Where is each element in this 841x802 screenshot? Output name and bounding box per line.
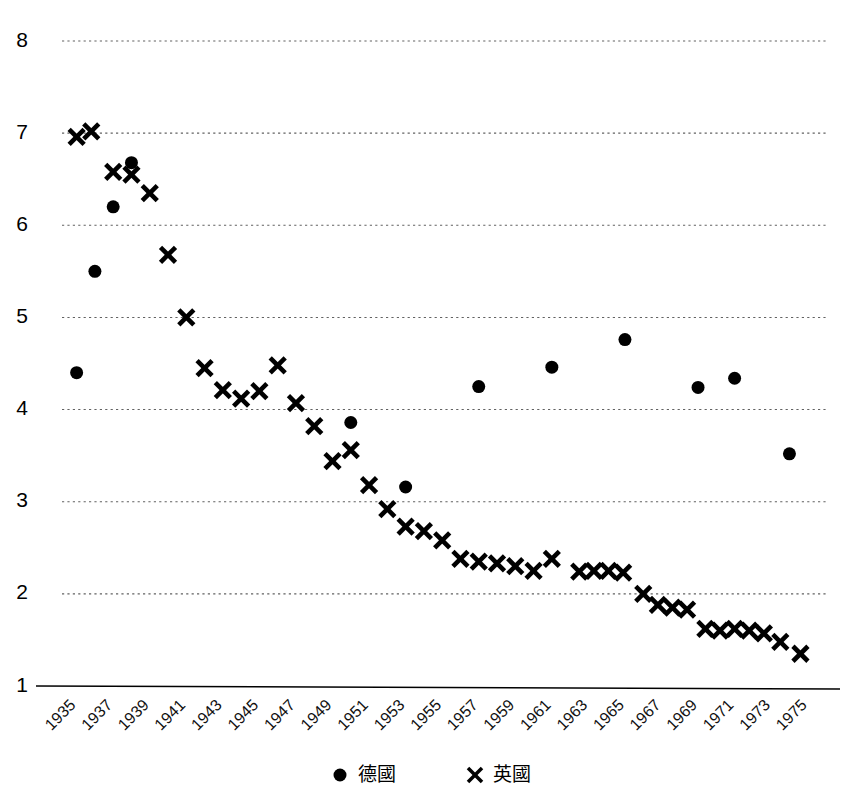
data-point-英國-23 — [490, 556, 505, 571]
scatter-chart-figure: 12345678 1935193719391941194319451947194… — [0, 0, 841, 802]
legend-label-英國: 英國 — [493, 764, 531, 785]
x-tick-label-1945: 1945 — [224, 696, 261, 733]
data-series-group — [69, 124, 808, 661]
data-point-德國-8 — [618, 333, 631, 346]
data-point-英國-9 — [234, 391, 249, 406]
data-point-英國-33 — [665, 600, 680, 615]
x-tick-label-1953: 1953 — [371, 696, 408, 733]
x-tick-label-1965: 1965 — [590, 696, 627, 733]
data-point-英國-25 — [526, 563, 541, 578]
axis-group — [36, 686, 840, 689]
data-point-英國-3 — [124, 167, 139, 182]
data-point-英國-28 — [586, 563, 601, 578]
data-point-英國-29 — [601, 563, 616, 578]
data-point-英國-1 — [84, 124, 99, 139]
legend-item-英國: 英國 — [468, 764, 531, 785]
x-tick-label-1951: 1951 — [334, 696, 371, 733]
y-tick-label-7: 7 — [16, 120, 28, 143]
data-point-英國-11 — [270, 358, 285, 373]
x-tick-label-1975: 1975 — [773, 696, 810, 733]
data-point-英國-24 — [508, 559, 523, 574]
data-point-德國-0 — [70, 366, 83, 379]
data-point-德國-9 — [692, 381, 705, 394]
data-point-英國-21 — [453, 551, 468, 566]
x-tick-label-1939: 1939 — [115, 696, 152, 733]
data-point-英國-5 — [161, 247, 176, 262]
data-point-英國-32 — [650, 597, 665, 612]
data-point-英國-35 — [698, 621, 713, 636]
data-point-英國-30 — [616, 565, 631, 580]
data-point-英國-18 — [398, 519, 413, 534]
x-tick-label-1957: 1957 — [444, 696, 481, 733]
data-point-英國-31 — [636, 586, 651, 601]
data-point-英國-20 — [435, 533, 450, 548]
x-axis-line — [36, 686, 840, 689]
legend-item-德國: 德國 — [334, 764, 397, 785]
y-tick-label-6: 6 — [16, 212, 28, 235]
data-point-英國-41 — [793, 646, 808, 661]
x-tick-label-1943: 1943 — [188, 696, 225, 733]
data-point-德國-5 — [399, 480, 412, 493]
data-point-德國-7 — [545, 361, 558, 374]
y-tick-label-8: 8 — [16, 28, 28, 51]
x-axis-tick-labels: 1935193719391941194319451947194919511953… — [42, 696, 810, 733]
x-tick-label-1959: 1959 — [480, 696, 517, 733]
data-point-英國-19 — [416, 524, 431, 539]
data-point-德國-1 — [88, 265, 101, 278]
data-point-英國-34 — [680, 602, 695, 617]
x-tick-label-1955: 1955 — [407, 696, 444, 733]
data-point-德國-10 — [728, 372, 741, 385]
data-point-英國-40 — [773, 634, 788, 649]
data-point-英國-10 — [252, 384, 267, 399]
data-point-英國-39 — [756, 626, 771, 641]
x-tick-label-1971: 1971 — [700, 696, 737, 733]
data-point-英國-17 — [380, 502, 395, 517]
data-point-英國-12 — [288, 396, 303, 411]
data-point-英國-16 — [362, 478, 377, 493]
legend-label-德國: 德國 — [358, 764, 396, 785]
x-tick-label-1963: 1963 — [553, 696, 590, 733]
data-point-英國-22 — [471, 554, 486, 569]
x-tick-label-1973: 1973 — [736, 696, 773, 733]
data-point-德國-2 — [107, 200, 120, 213]
y-tick-label-5: 5 — [16, 304, 28, 327]
x-tick-label-1947: 1947 — [261, 696, 298, 733]
legend-marker-circle-icon — [334, 769, 347, 782]
data-point-德國-4 — [344, 416, 357, 429]
x-tick-label-1961: 1961 — [517, 696, 554, 733]
data-point-德國-11 — [783, 447, 796, 460]
x-tick-label-1935: 1935 — [42, 696, 79, 733]
x-tick-label-1967: 1967 — [626, 696, 663, 733]
data-point-英國-37 — [727, 621, 742, 636]
chart-legend: 德國英國 — [334, 764, 532, 785]
data-point-英國-8 — [215, 383, 230, 398]
data-point-英國-0 — [69, 129, 84, 144]
x-tick-label-1949: 1949 — [297, 696, 334, 733]
data-point-英國-4 — [142, 186, 157, 201]
y-tick-label-4: 4 — [16, 396, 28, 419]
y-tick-label-2: 2 — [16, 580, 28, 603]
data-point-英國-13 — [307, 419, 322, 434]
x-tick-label-1969: 1969 — [663, 696, 700, 733]
data-point-德國-6 — [472, 380, 485, 393]
gridlines-group — [62, 41, 826, 594]
data-point-英國-7 — [197, 361, 212, 376]
data-point-英國-36 — [712, 623, 727, 638]
x-tick-label-1937: 1937 — [78, 696, 115, 733]
data-point-英國-14 — [325, 454, 340, 469]
data-point-英國-15 — [343, 443, 358, 458]
x-tick-label-1941: 1941 — [151, 696, 188, 733]
y-axis-tick-labels: 12345678 — [16, 28, 28, 696]
data-point-英國-26 — [544, 551, 559, 566]
y-tick-label-1: 1 — [16, 673, 28, 696]
data-point-英國-38 — [742, 623, 757, 638]
chart-canvas: 12345678 1935193719391941194319451947194… — [0, 0, 841, 802]
data-point-英國-2 — [106, 164, 121, 179]
y-tick-label-3: 3 — [16, 488, 28, 511]
data-point-英國-27 — [572, 564, 587, 579]
